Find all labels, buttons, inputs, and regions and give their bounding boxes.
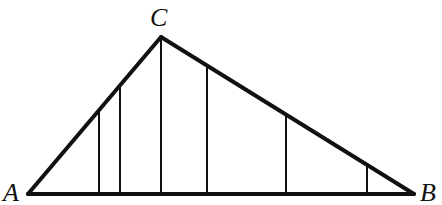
vertex-label-a: A — [1, 178, 19, 205]
vertex-label-c: C — [150, 3, 168, 32]
vertex-label-b: B — [420, 178, 436, 205]
side-ac — [28, 37, 161, 194]
vertex-labels: ACB — [1, 3, 436, 205]
triangle-sides — [28, 37, 414, 194]
triangle-diagram: ACB — [0, 0, 442, 205]
side-cb — [161, 37, 414, 194]
